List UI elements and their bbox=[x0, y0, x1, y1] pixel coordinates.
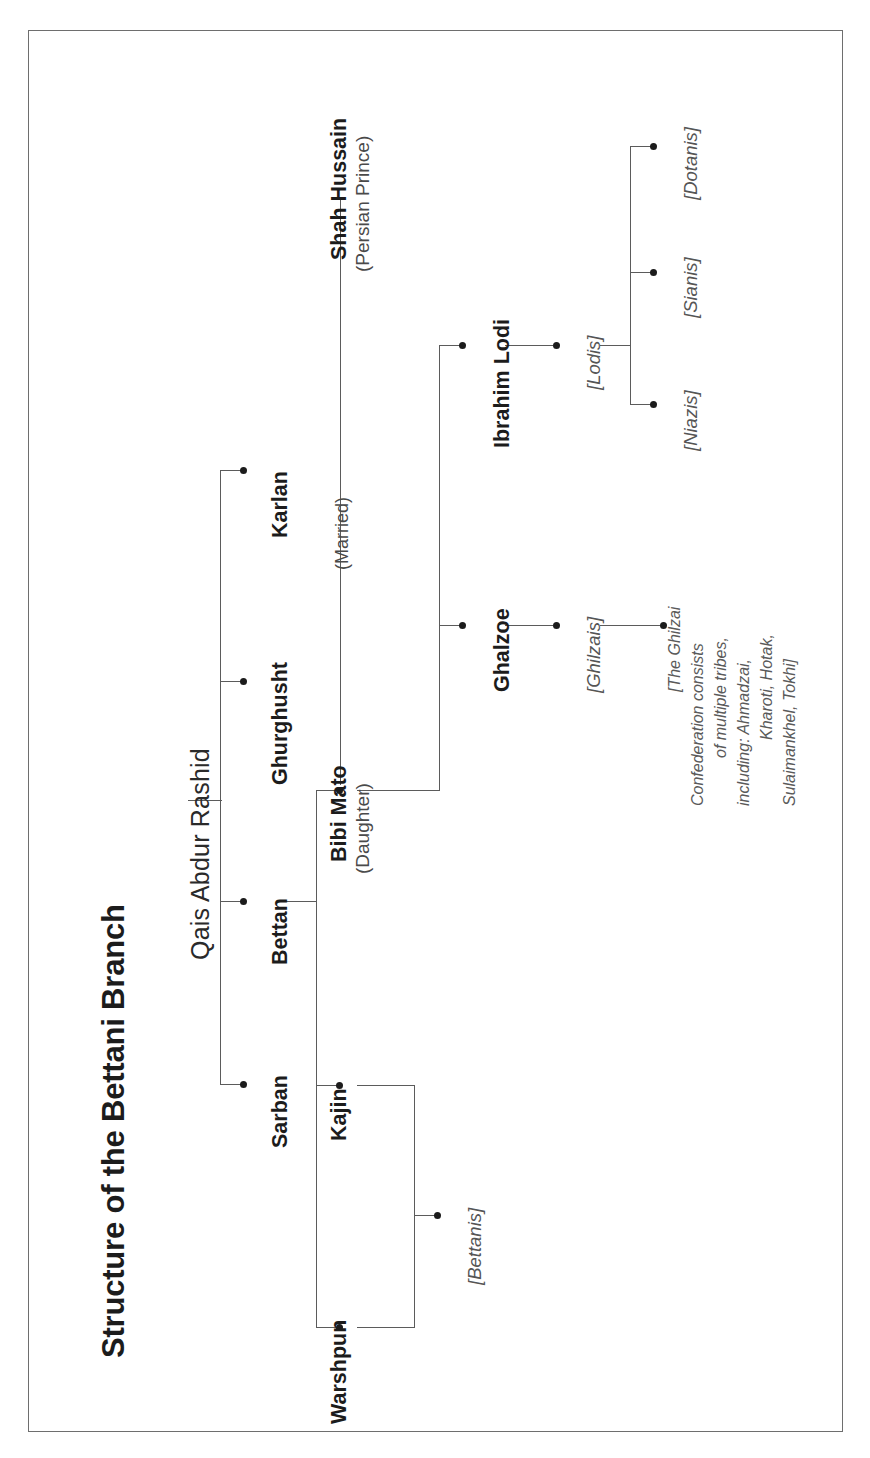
connector-qais-sarban bbox=[220, 1084, 242, 1085]
node-label-sarban: Sarban bbox=[268, 1075, 293, 1148]
node-label-warshpun: Warshpun bbox=[327, 1320, 352, 1424]
connector-bettan-kajin bbox=[316, 1085, 338, 1086]
node-dot-niazis bbox=[650, 401, 657, 408]
edge-label-married: (Married) bbox=[332, 497, 353, 570]
node-dot-ghalzoe bbox=[459, 622, 466, 629]
connector-lodis-sianis bbox=[630, 272, 652, 273]
connector-qais-bettan bbox=[220, 901, 242, 902]
connector-bettanis-stem bbox=[414, 1215, 436, 1216]
connector-lodis-niazis bbox=[630, 404, 652, 405]
screenshot-canvas: Structure of the Bettani Branch bbox=[0, 0, 870, 1458]
node-dot-karlan bbox=[240, 467, 247, 474]
annotation-ghilzai-line-5: Kharoti, Hotak, bbox=[755, 634, 778, 740]
page-title: Structure of the Bettani Branch bbox=[96, 904, 133, 1358]
node-dot-sarban bbox=[240, 1081, 247, 1088]
node-dot-sianis bbox=[650, 269, 657, 276]
node-dot-bettanis bbox=[434, 1212, 441, 1219]
node-label-bettanis: [Bettanis] bbox=[464, 1208, 486, 1285]
connector-warshpun-bettanis bbox=[357, 1327, 415, 1328]
node-label-lodis: [Lodis] bbox=[583, 335, 605, 390]
connector-ghilzais-note bbox=[600, 625, 660, 626]
annotation-ghilzai-line-4: including: Ahmadzai, bbox=[732, 659, 755, 806]
connector-bibimato-ibrahim bbox=[439, 345, 461, 346]
node-dot-dotanis bbox=[650, 143, 657, 150]
annotation-ghilzai-line-2: Confederation consists bbox=[686, 643, 709, 806]
node-label-bettan: Bettan bbox=[268, 898, 293, 965]
node-label-karlan: Karlan bbox=[268, 471, 293, 538]
node-label-kajin: Kajin bbox=[327, 1088, 352, 1141]
node-dot-ghurghusht bbox=[240, 678, 247, 685]
node-label-ghurghusht: Ghurghusht bbox=[268, 662, 293, 785]
annotation-ghilzai-line-6: Sulaimankhel, Tokhi] bbox=[778, 659, 801, 806]
node-label-ibrahim-lodi: Ibrahim Lodi bbox=[490, 319, 515, 448]
connector-bettan-spine bbox=[316, 790, 317, 1327]
node-dot-ghilzais bbox=[553, 622, 560, 629]
connector-bettanis-spine bbox=[414, 1085, 415, 1327]
node-label-ghalzoe: Ghalzoe bbox=[490, 608, 515, 692]
node-label-bibi-mato: Bibi Mato bbox=[327, 765, 352, 862]
annotation-ghilzai-line-3: of multiple tribes, bbox=[709, 637, 732, 758]
node-label-shah-hussain: Shah Hussain bbox=[327, 118, 352, 260]
node-dot-ibrahim-lodi bbox=[459, 342, 466, 349]
node-label-sianis: [Sianis] bbox=[680, 257, 702, 318]
connector-qais-karlan bbox=[220, 470, 242, 471]
node-label-qais-abdur-rashid: Qais Abdur Rashid bbox=[186, 748, 216, 960]
node-label-niazis: [Niazis] bbox=[680, 390, 702, 451]
node-dot-lodis bbox=[553, 342, 560, 349]
connector-level1-spine bbox=[220, 470, 221, 1084]
node-label-dotanis: [Dotanis] bbox=[680, 127, 702, 200]
connector-marriage-bibimato-shah bbox=[340, 200, 341, 785]
node-label-ghilzais: [Ghilzais] bbox=[583, 617, 605, 693]
node-dot-bettan bbox=[240, 898, 247, 905]
connector-lodis-dotanis bbox=[630, 146, 652, 147]
connector-bibimato-ghalzoe bbox=[439, 625, 461, 626]
connector-qais-ghurghusht bbox=[220, 681, 242, 682]
node-sublabel-bibi-mato: (Daughter) bbox=[352, 783, 374, 874]
annotation-ghilzai-line-1: [The Ghilzai bbox=[663, 607, 686, 692]
connector-lodis-spine bbox=[630, 146, 631, 404]
connector-kajin-bettanis bbox=[357, 1085, 415, 1086]
node-sublabel-shah-hussain: (Persian Prince) bbox=[352, 136, 374, 272]
connector-bibimato-spine bbox=[439, 345, 440, 791]
